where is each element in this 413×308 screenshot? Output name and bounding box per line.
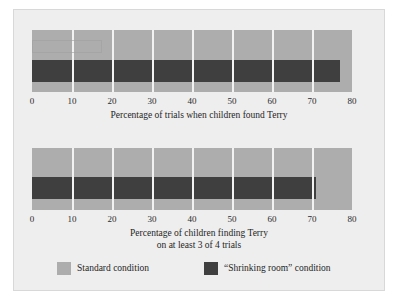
chart-children-3-of-4: 01020304050607080 Percentage of children… xyxy=(14,134,384,269)
legend-swatch-shrinking xyxy=(204,262,218,275)
plot-area-1 xyxy=(32,30,352,92)
x-tick-label: 0 xyxy=(30,94,35,108)
gridline xyxy=(152,148,154,210)
x-tick-label: 50 xyxy=(228,212,237,226)
x-tick-label: 30 xyxy=(148,94,157,108)
legend-item-shrinking: “Shrinking room” condition xyxy=(204,262,331,275)
x-axis-tick-labels-1: 01020304050607080 xyxy=(32,94,352,108)
x-tick-label: 0 xyxy=(30,212,35,226)
gridline xyxy=(72,148,74,210)
figure-panel: 01020304050607080 Percentage of trials w… xyxy=(13,9,385,291)
x-tick-label: 60 xyxy=(268,94,277,108)
gridline xyxy=(192,148,194,210)
x-axis-title-2-line1: Percentage of children finding Terry xyxy=(14,227,384,239)
chart-trials-found-terry: 01020304050607080 Percentage of trials w… xyxy=(14,10,384,130)
gridline xyxy=(152,30,154,92)
x-axis-title-2-line2: on at least 3 of 4 trials xyxy=(14,239,384,251)
x-tick-label: 30 xyxy=(148,212,157,226)
legend-label-shrinking: “Shrinking room” condition xyxy=(224,262,331,275)
chart-legend: Standard condition “Shrinking room” cond… xyxy=(14,262,384,278)
gridline xyxy=(112,30,114,92)
legend-swatch-standard xyxy=(57,262,71,275)
x-axis-title-1: Percentage of trials when children found… xyxy=(14,109,384,121)
gridline xyxy=(72,30,74,92)
x-tick-label: 70 xyxy=(308,94,317,108)
x-tick-label: 10 xyxy=(68,212,77,226)
x-tick-label: 60 xyxy=(268,212,277,226)
x-tick-label: 40 xyxy=(188,94,197,108)
x-tick-label: 80 xyxy=(348,212,357,226)
gridline xyxy=(272,30,274,92)
legend-label-standard: Standard condition xyxy=(77,262,149,275)
gridline xyxy=(232,148,234,210)
x-tick-label: 20 xyxy=(108,94,117,108)
plot-area-2 xyxy=(32,148,352,210)
bar-shrinking-room-condition xyxy=(32,60,340,82)
x-tick-label: 20 xyxy=(108,212,117,226)
x-axis-tick-labels-2: 01020304050607080 xyxy=(32,212,352,226)
gridline xyxy=(232,30,234,92)
x-tick-label: 80 xyxy=(348,94,357,108)
gridline xyxy=(112,148,114,210)
gridline xyxy=(312,30,314,92)
gridline xyxy=(192,30,194,92)
x-tick-label: 50 xyxy=(228,94,237,108)
gridline xyxy=(272,148,274,210)
x-tick-label: 40 xyxy=(188,212,197,226)
legend-item-standard: Standard condition xyxy=(57,262,149,275)
x-tick-label: 10 xyxy=(68,94,77,108)
gridline xyxy=(312,148,314,210)
x-tick-label: 70 xyxy=(308,212,317,226)
